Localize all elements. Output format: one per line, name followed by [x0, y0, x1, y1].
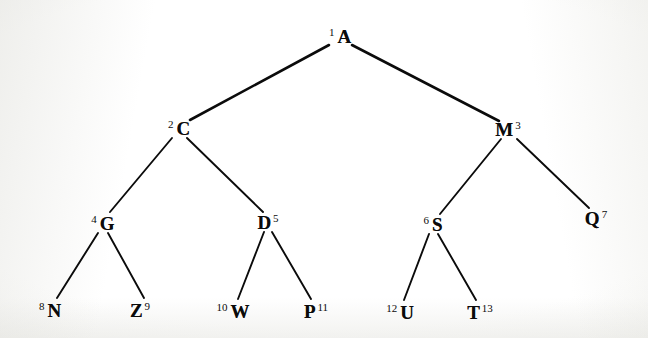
tree-node-n[interactable]: 8N: [39, 301, 61, 320]
tree-node-label-z: Z: [130, 301, 143, 320]
tree-node-number-13: 13: [482, 303, 493, 314]
tree-node-t[interactable]: T13: [467, 303, 493, 322]
tree-node-label-u: U: [400, 303, 414, 322]
tree-node-label-w: W: [231, 302, 250, 321]
tree-node-q[interactable]: Q7: [585, 209, 607, 228]
tree-node-number-8: 8: [39, 301, 45, 312]
tree-node-label-a: A: [337, 27, 351, 46]
tree-diagram-canvas: 1A2CM34GD56SQ78NZ910WP1112UT13: [0, 0, 648, 338]
tree-node-m[interactable]: M3: [495, 120, 520, 139]
tree-node-g[interactable]: 4G: [91, 214, 114, 233]
tree-edge-s-t: [438, 234, 476, 300]
tree-edge-m-s: [440, 139, 501, 214]
tree-node-number-4: 4: [91, 214, 97, 225]
tree-node-c[interactable]: 2C: [168, 119, 190, 138]
tree-node-label-t: T: [467, 303, 480, 322]
tree-node-number-7: 7: [602, 209, 608, 220]
tree-node-label-d: D: [257, 213, 271, 232]
tree-node-number-12: 12: [386, 303, 397, 314]
tree-node-u[interactable]: 12U: [386, 303, 414, 322]
tree-edge-g-z: [108, 233, 144, 298]
tree-node-number-10: 10: [217, 302, 228, 313]
tree-node-label-q: Q: [585, 209, 600, 228]
tree-node-label-p: P: [304, 302, 316, 321]
tree-node-number-2: 2: [168, 119, 174, 130]
tree-node-label-s: S: [432, 215, 443, 234]
tree-edge-g-n: [57, 233, 98, 298]
tree-node-d[interactable]: D5: [257, 213, 278, 232]
tree-node-label-c: C: [176, 119, 190, 138]
tree-node-number-3: 3: [515, 120, 521, 131]
tree-node-label-g: G: [100, 214, 115, 233]
tree-edge-s-u: [404, 234, 429, 300]
tree-edge-c-g: [110, 138, 172, 212]
tree-edge-a-c: [190, 45, 329, 120]
tree-edge-c-d: [187, 138, 263, 212]
tree-node-w[interactable]: 10W: [217, 302, 250, 321]
tree-node-a[interactable]: 1A: [329, 27, 351, 46]
tree-edges-layer: [0, 0, 648, 338]
tree-node-number-5: 5: [273, 213, 279, 224]
tree-edge-d-w: [238, 232, 264, 299]
tree-node-label-m: M: [495, 120, 513, 139]
tree-node-p[interactable]: P11: [304, 302, 328, 321]
tree-edge-m-q: [517, 139, 589, 208]
tree-node-number-6: 6: [423, 215, 429, 226]
tree-edge-d-p: [272, 232, 311, 299]
tree-node-z[interactable]: Z9: [130, 301, 150, 320]
tree-node-number-11: 11: [318, 302, 329, 313]
tree-node-number-9: 9: [145, 301, 151, 312]
tree-node-label-n: N: [47, 301, 61, 320]
tree-node-s[interactable]: 6S: [423, 215, 442, 234]
tree-node-number-1: 1: [329, 27, 335, 38]
tree-edge-a-m: [352, 45, 499, 121]
